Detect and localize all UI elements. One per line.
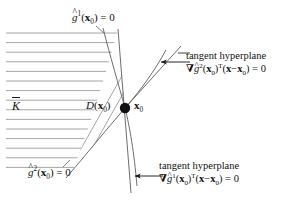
- annotation-tangent-hyperplane-g2: tangent hyperplane ∇^g2(x0)T(x−x0) = 0: [186, 50, 266, 76]
- annotation-tangent-hyperplane-g1: tangent hyperplane ∇^g1(x0)T(x−x0) = 0: [159, 160, 239, 186]
- nabla-icon: ∇: [186, 63, 194, 74]
- nabla-icon: ∇: [159, 173, 167, 184]
- overbar-accent-icon: [12, 97, 20, 98]
- hat-accent-icon: ^: [29, 163, 33, 172]
- constraint-curve-g2: [66, 50, 166, 178]
- label-point-x0: x0: [134, 99, 143, 112]
- k-bar-symbol: K: [12, 99, 20, 113]
- g-hat-symbol: ^g: [28, 166, 34, 179]
- label-constraint-curve-g1: ^g1(x0) = 0: [72, 11, 115, 24]
- horizontal-hatch-lines: [4, 33, 130, 167]
- hat-accent-icon: ^: [194, 61, 198, 70]
- annotation-line-2: ∇^g1(x0)T(x−x0) = 0: [159, 173, 239, 185]
- figure-root: ^g1(x0) = 0 ^g2(x0) = 0 K D(x0) x0 tange…: [0, 0, 297, 202]
- hat-accent-icon: ^: [167, 171, 171, 180]
- label-direction-cone: D(x0): [86, 99, 110, 112]
- g-hat-symbol: ^g: [72, 11, 78, 24]
- hat-accent-icon: ^: [73, 8, 77, 17]
- point-x0-marker: [120, 103, 130, 113]
- g-hat-symbol: ^g: [167, 173, 172, 185]
- leader-line-g1-label: [96, 26, 104, 33]
- annotation-line-2: ∇^g2(x0)T(x−x0) = 0: [186, 63, 266, 75]
- label-constraint-curve-g2: ^g2(x0) = 0: [28, 166, 71, 179]
- label-feasible-set: K: [12, 99, 20, 113]
- g-hat-symbol: ^g: [194, 63, 199, 75]
